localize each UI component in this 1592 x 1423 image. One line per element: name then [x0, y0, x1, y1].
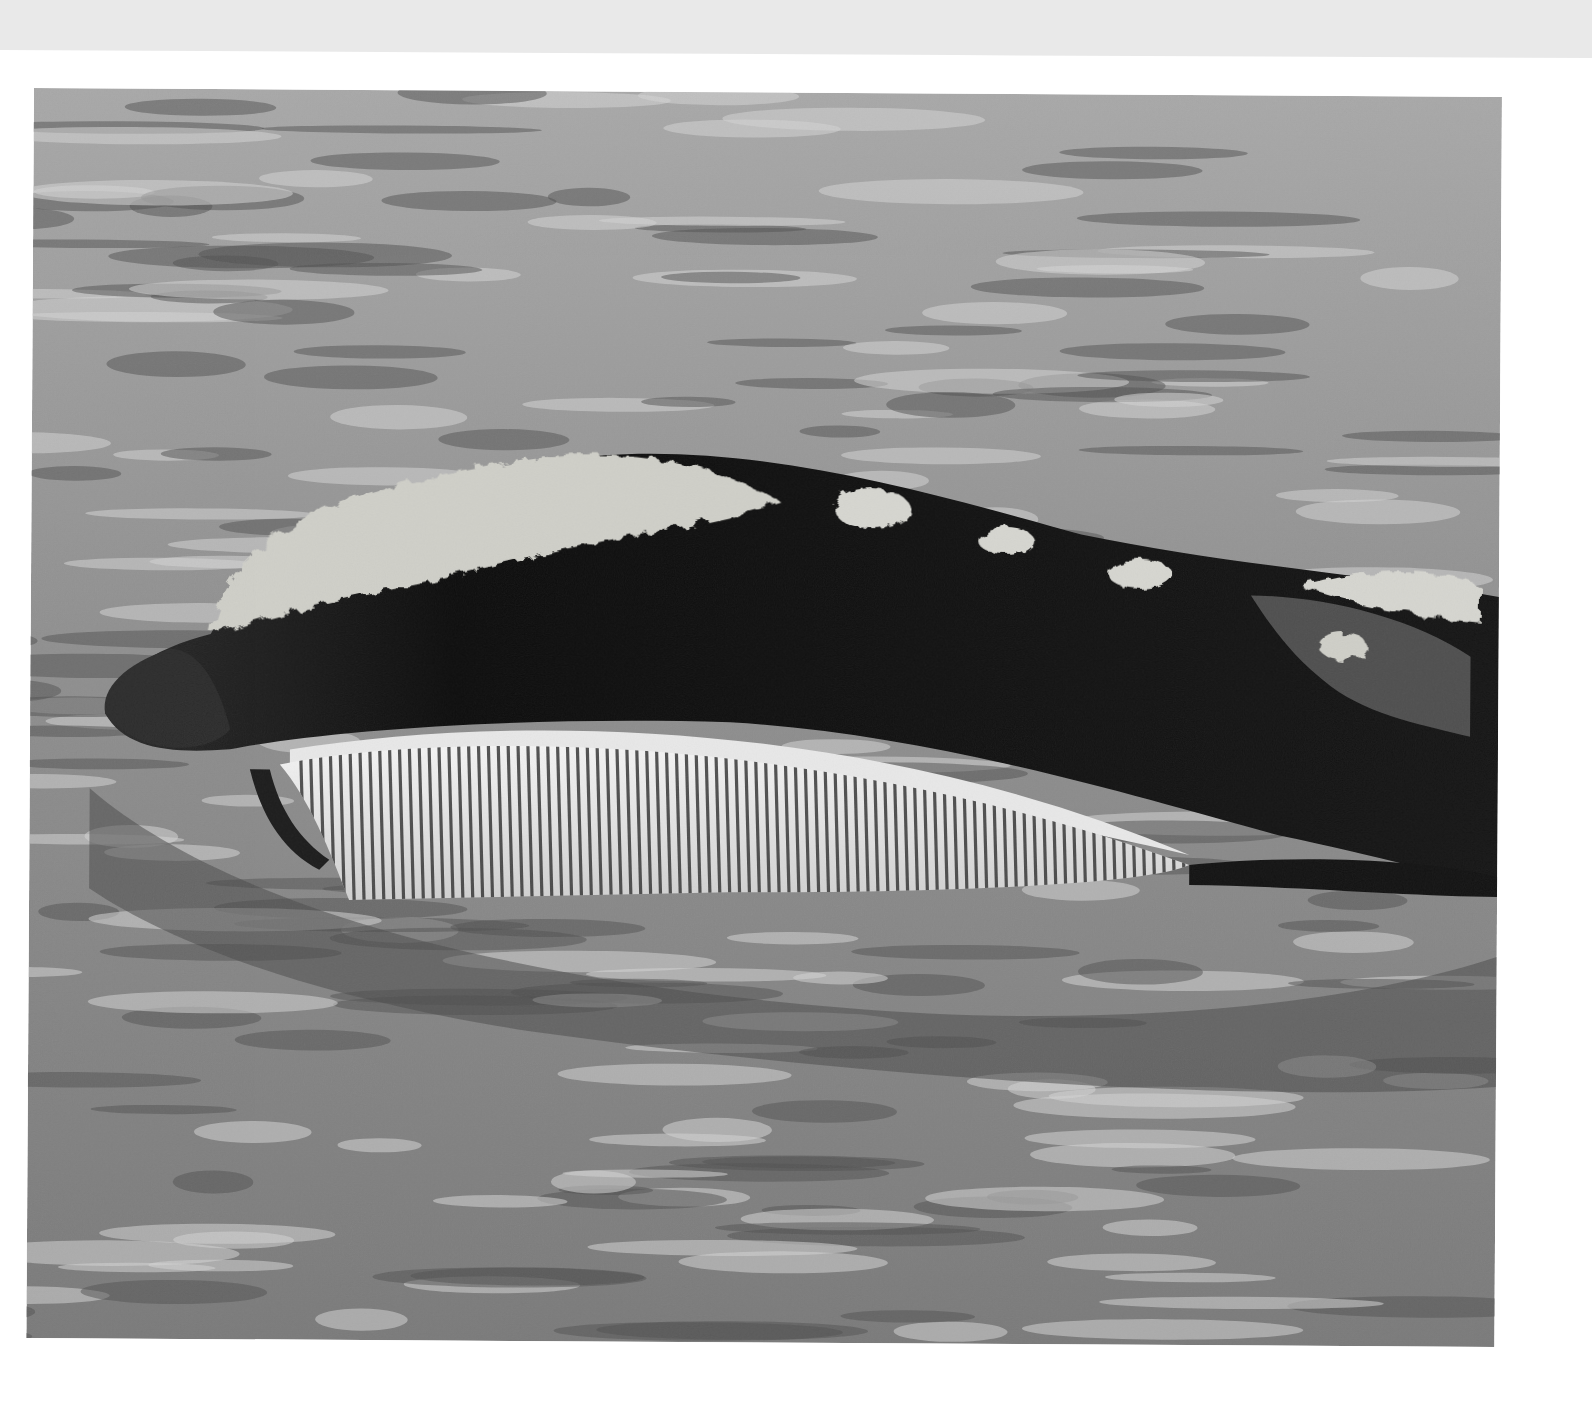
film-grain	[26, 88, 1502, 1347]
scanned-paper-strip	[0, 0, 1592, 58]
whale-photograph	[26, 88, 1502, 1347]
